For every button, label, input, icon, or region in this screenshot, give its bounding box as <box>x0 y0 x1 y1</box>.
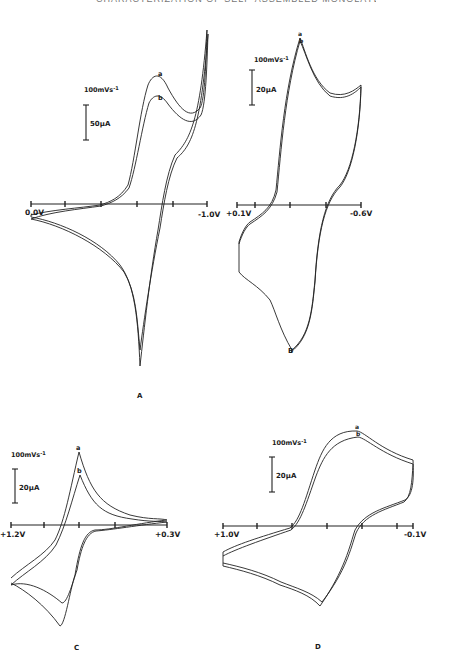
panel-b-curve-b-label: b <box>299 37 304 44</box>
panel-d-title: D <box>315 643 321 651</box>
panel-d-scale-label: 20µA <box>276 472 297 480</box>
panel-c-scale-label: 20µA <box>19 484 40 492</box>
panel-c-curve-a-label: a <box>76 444 80 452</box>
panel-a-scale-label: 50µA <box>90 120 111 128</box>
panel-a-title: A <box>137 392 143 400</box>
panel-d-x-start-label: +1.0V <box>214 530 240 539</box>
panel-b-x-start-label: +0.1V <box>226 209 252 218</box>
panel-b-scale-bar <box>249 70 255 105</box>
panel-b-curve-a-label: a <box>298 30 302 37</box>
panel-c-scale-bar <box>12 469 18 503</box>
panel-c-title: C <box>74 644 79 652</box>
panel-b-curve-a <box>239 38 361 350</box>
panel-d-curve-b-label: b <box>356 430 361 437</box>
panel-a: 0.0V -1.0V 100mVs-1 50µA a b A <box>25 30 220 400</box>
cyclic-voltammetry-figure: 0.0V -1.0V 100mVs-1 50µA a b A +0.1V -0.… <box>0 0 449 662</box>
panel-d-x-end-label: -0.1V <box>404 530 426 539</box>
panel-c-curve-b <box>11 475 167 603</box>
panel-a-scan-rate: 100mVs-1 <box>84 85 119 94</box>
panel-a-x-end-label: -1.0V <box>198 210 220 219</box>
panel-d-curve-a <box>223 431 413 606</box>
panel-b: +0.1V -0.6V 100mVs-1 20µA a b B <box>226 30 372 355</box>
panel-a-x-start-label: 0.0V <box>25 208 44 217</box>
panel-c-x-start-label: +1.2V <box>0 530 26 539</box>
panel-d-scan-rate: 100mVs-1 <box>272 438 307 447</box>
panel-d: +1.0V -0.1V 100mVs-1 20µA a b D <box>214 423 426 651</box>
panel-b-scale-label: 20µA <box>256 86 277 94</box>
panel-c-curve-b-label: b <box>77 467 82 475</box>
panel-d-curve-a-label: a <box>355 423 359 430</box>
panel-a-scale-bar <box>83 105 89 140</box>
panel-c-curve-a <box>11 452 167 626</box>
panel-a-curve-b-label: b <box>158 94 163 102</box>
panel-c-x-end-label: +0.3V <box>155 530 181 539</box>
panel-a-curve-b <box>31 34 208 350</box>
panel-c-scan-rate: 100mVs-1 <box>11 450 46 459</box>
panel-b-scan-rate: 100mVs-1 <box>254 55 289 64</box>
panel-b-x-end-label: -0.6V <box>350 209 372 218</box>
panel-a-curve-a-label: a <box>158 70 162 78</box>
panel-d-scale-bar <box>269 457 275 492</box>
panel-c: +1.2V +0.3V 100mVs-1 20µA a b C <box>0 444 181 652</box>
panel-b-title: B <box>288 347 293 355</box>
